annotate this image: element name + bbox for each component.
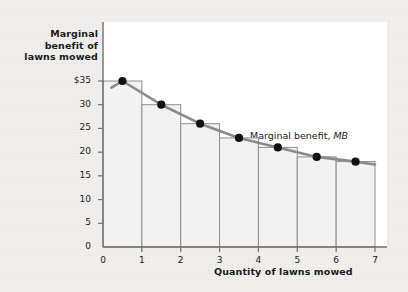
data-point	[313, 153, 321, 161]
chart-canvas	[0, 0, 408, 292]
bar	[258, 147, 297, 247]
data-point	[157, 101, 165, 109]
bar-group	[103, 81, 375, 247]
data-point	[274, 143, 282, 151]
bar	[103, 81, 142, 247]
data-point	[235, 134, 243, 142]
bar	[297, 157, 336, 247]
bar	[142, 105, 181, 247]
bar	[220, 138, 259, 247]
figure-container: Marginal benefit of lawns mowed Quantity…	[0, 0, 408, 292]
data-point	[196, 120, 204, 128]
bar	[336, 162, 375, 247]
bar	[181, 124, 220, 247]
data-point	[118, 77, 126, 85]
data-point	[351, 158, 359, 166]
